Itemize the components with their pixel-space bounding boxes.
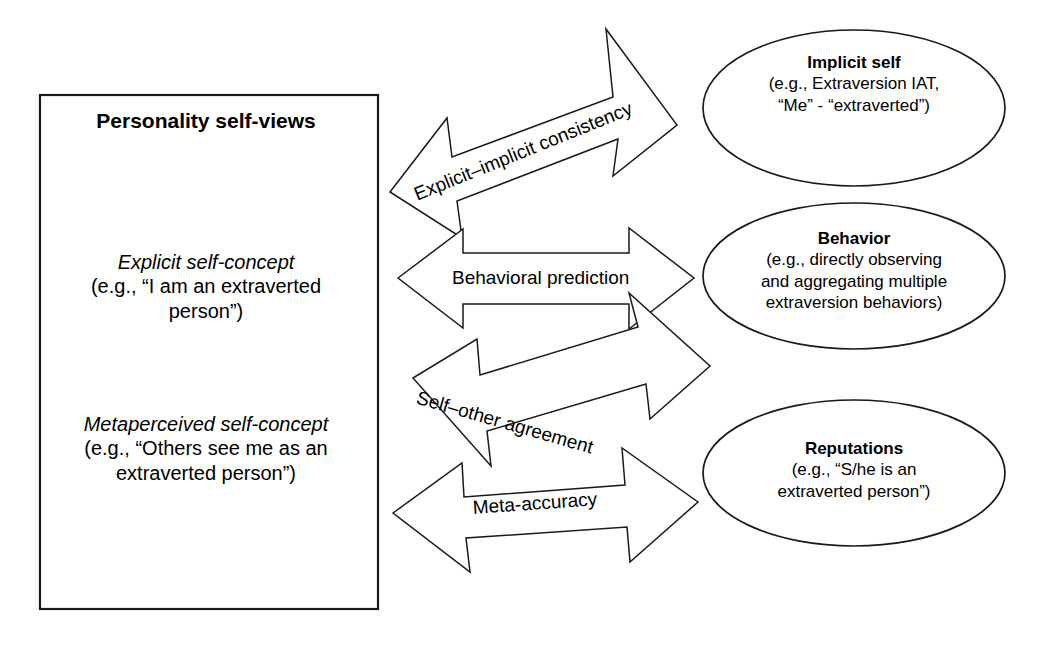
behavior-text: Behavior (e.g., directly observing and a… (706, 228, 1002, 314)
metaperceived-self-concept-label: Metaperceived self-concept (38, 412, 374, 437)
implicit-self-title: Implicit self (714, 52, 994, 73)
behavior-example: (e.g., directly observing and aggregatin… (706, 249, 1002, 313)
metaperceived-self-concept-example: (e.g., “Others see me as an extraverted … (38, 436, 374, 486)
behavior-title: Behavior (706, 228, 1002, 249)
reputations-example: (e.g., “S/he is an extraverted person”) (706, 459, 1002, 502)
explicit-self-concept-example: (e.g., “I am an extraverted person”) (40, 274, 372, 324)
reputations-title: Reputations (706, 438, 1002, 459)
personality-self-views-box (40, 95, 378, 609)
diagram-canvas: Personality self-views Explicit self-con… (0, 0, 1041, 655)
arrow-explicit-implicit-consistency (390, 29, 677, 238)
box-title: Personality self-views (46, 108, 366, 134)
implicit-self-text: Implicit self (e.g., Extraversion IAT, “… (714, 52, 994, 116)
reputations-text: Reputations (e.g., “S/he is an extravert… (706, 438, 1002, 502)
explicit-self-concept-label: Explicit self-concept (46, 250, 366, 275)
implicit-self-example: (e.g., Extraversion IAT, “Me” - “extrave… (714, 73, 994, 116)
arrow-label-behavioral-prediction: Behavioral prediction (452, 267, 629, 289)
